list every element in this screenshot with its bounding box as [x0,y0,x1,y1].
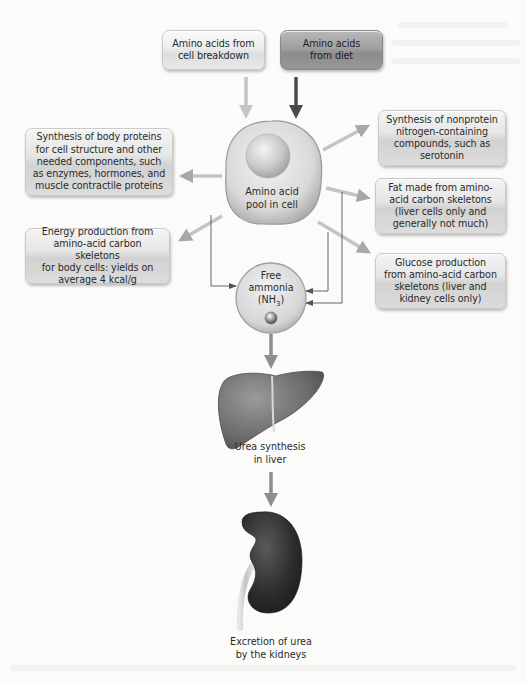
kidney-icon [240,512,302,628]
output-label-nonprotein-nitrogen: Synthesis of nonprotein nitrogen-contain… [386,114,497,163]
liver-label: Urea synthesis in liver [220,441,320,466]
formula-prefix: (NH [258,294,276,305]
output-label-fat: Fat made from amino- acid carbon skeleto… [388,182,492,231]
source-box-diet: Amino acids from diet [280,30,383,70]
ammonia-label: Free ammonia (NH3) [236,270,306,310]
formula-suffix: ) [280,294,284,305]
kidney-label: Excretion of urea by the kidneys [216,636,326,661]
output-box-nonprotein-nitrogen: Synthesis of nonprotein nitrogen-contain… [378,110,506,166]
output-box-fat: Fat made from amino- acid carbon skeleto… [375,178,506,234]
ammonia-line2: ammonia [236,282,306,294]
arrow-pool-to-energy [184,216,222,238]
output-label-glucose: Glucose production from amino-acid carbo… [384,257,497,306]
hub-label: Amino acid pool in cell [232,186,312,211]
ammonia-line1: Free [236,270,306,282]
output-box-energy: Energy production from amino-acid carbon… [25,228,170,284]
diagram-canvas [0,0,526,685]
ammonia-formula: (NH3) [236,294,306,310]
nucleus-icon [246,134,290,178]
output-label-body-proteins: Synthesis of body proteins for cell stru… [33,131,166,192]
liver-icon [218,371,323,449]
molecule-ball-icon [265,312,277,324]
arrow-pool-to-nonprotein [323,128,364,150]
output-box-glucose: Glucose production from amino-acid carbo… [375,253,506,309]
source-label-cell-breakdown: Amino acids from cell breakdown [172,38,254,62]
line-fat-to-ammonia [306,232,328,291]
source-box-cell-breakdown: Amino acids from cell breakdown [162,30,265,70]
line-energy-to-ammonia [211,215,236,286]
output-box-body-proteins: Synthesis of body proteins for cell stru… [25,128,173,196]
output-label-energy: Energy production from amino-acid carbon… [30,226,165,287]
source-label-diet: Amino acids from diet [303,38,360,62]
arrow-pool-to-glucose [318,222,365,250]
arrow-pool-to-fat [326,188,364,197]
